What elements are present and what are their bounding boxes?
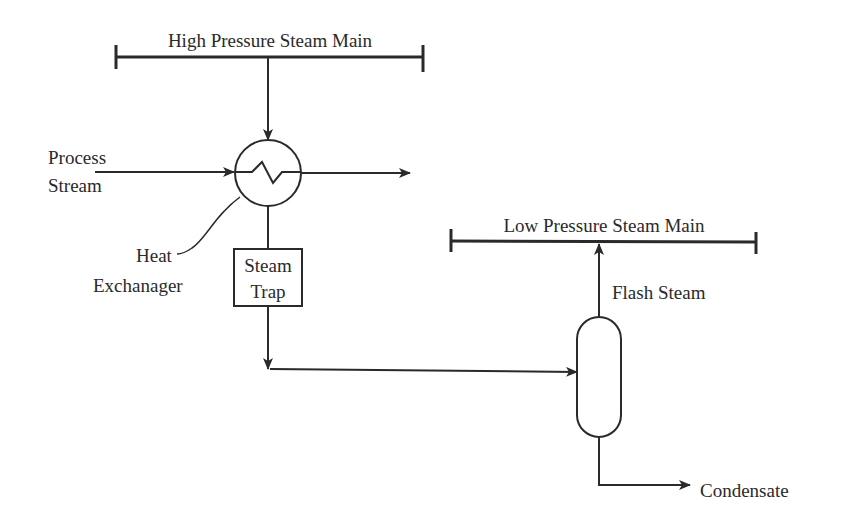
heat-exchanger-callout (177, 197, 240, 254)
flash-steam-label: Flash Steam (612, 282, 706, 303)
heat-exchanger-label-2: Exchanager (93, 275, 183, 296)
flash-drum-vessel (577, 317, 621, 437)
trap-to-flash-line (270, 369, 577, 372)
steam-trap-label-1: Steam (244, 255, 292, 276)
steam-system-diagram: High Pressure Steam Main Process Stream … (0, 0, 853, 526)
steam-trap-label-2: Trap (250, 281, 285, 302)
condensate-out-line (599, 437, 690, 485)
process-label-2: Stream (48, 175, 102, 196)
heat-exchanger-icon (235, 140, 301, 206)
lp-main-label: Low Pressure Steam Main (503, 215, 705, 236)
lp-steam-main: Low Pressure Steam Main (451, 215, 756, 254)
hp-steam-main: High Pressure Steam Main (116, 30, 423, 72)
hp-main-label: High Pressure Steam Main (168, 30, 373, 51)
heat-exchanger-label-1: Heat (136, 245, 173, 266)
condensate-label: Condensate (700, 480, 789, 501)
steam-trap-box: Steam Trap (234, 249, 302, 306)
process-label-1: Process (48, 147, 106, 168)
